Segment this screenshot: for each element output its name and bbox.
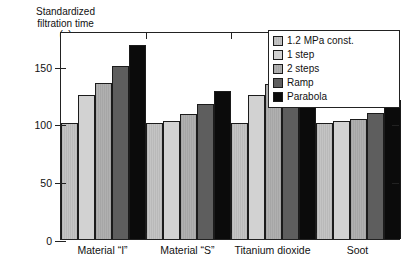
x-axis-category-label: Material “S” [145,244,230,256]
legend-swatch [273,50,283,60]
y-axis-title-line-1: Standardized [8,6,123,18]
bar [95,83,112,239]
bar-chart: Standardized filtration time (–) 0501001… [0,0,420,274]
legend-label: Parabola [287,92,327,102]
group-separator-tick-bottom [146,233,147,239]
legend-label: 1 step [287,50,314,60]
legend-label: 2 steps [287,64,319,74]
bar [197,104,214,239]
right-axis-tick [392,183,399,184]
legend: 1.2 MPa const.1 step2 stepsRampParabola [268,30,400,108]
bar [214,91,231,239]
bar [112,66,129,239]
legend-item: Ramp [273,76,395,90]
bar [248,95,265,239]
group-separator-tick-bottom [316,233,317,239]
y-axis-tick-inner [61,68,66,69]
bar [129,45,146,239]
legend-swatch [273,64,283,74]
bar [78,95,95,239]
legend-swatch [273,36,283,46]
y-axis-tick-label: 50 [40,177,52,189]
bar [316,123,333,239]
x-axis-category-label: Material “I” [60,244,145,256]
y-axis-title-line-2: filtration time [8,18,123,30]
legend-item: Parabola [273,90,395,104]
y-axis-tick-label: 100 [34,119,52,131]
group-separator-tick-bottom [231,233,232,239]
legend-label: 1.2 MPa const. [287,36,354,46]
bar [231,123,248,239]
bar [384,100,401,239]
legend-item: 1 step [273,48,395,62]
bar-group [61,33,146,239]
legend-item: 1.2 MPa const. [273,34,395,48]
bar [333,121,350,239]
bar [163,121,180,239]
bar [180,114,197,239]
y-axis-tick-inner [61,183,66,184]
y-axis-tick-inner [61,241,66,242]
x-axis-category-label: Soot [315,244,400,256]
x-axis-category-label: Titanium dioxide [230,244,315,256]
group-separator-tick-top [146,33,147,39]
bar [146,123,163,239]
x-axis-category-labels: Material “I”Material “S”Titanium dioxide… [60,244,400,256]
group-separator-tick-top [231,33,232,39]
bar [61,123,78,239]
legend-label: Ramp [287,78,314,88]
bar [350,119,367,239]
legend-swatch [273,78,283,88]
y-axis-tick-label: 150 [34,62,52,74]
legend-swatch [273,92,283,102]
y-axis-tick-inner [61,125,66,126]
legend-item: 2 steps [273,62,395,76]
bar [367,113,384,239]
y-axis-tick-label: 0 [46,235,52,247]
bar-group [146,33,231,239]
right-axis-tick [392,125,399,126]
